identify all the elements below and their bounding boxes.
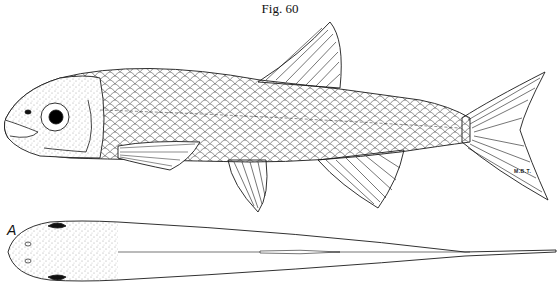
- lateral-view: [4, 22, 548, 212]
- pectoral-fin: [118, 142, 200, 171]
- pelvic-fin: [228, 160, 267, 212]
- panel-label: A: [7, 222, 16, 238]
- caudal-fin: [462, 72, 548, 200]
- dorsal-view: [8, 221, 556, 281]
- artist-signature: M.B.T.: [514, 168, 531, 174]
- fish-illustration: [0, 0, 560, 290]
- nostril: [25, 110, 31, 114]
- dorsal-fin: [258, 22, 341, 88]
- pupil: [49, 110, 63, 124]
